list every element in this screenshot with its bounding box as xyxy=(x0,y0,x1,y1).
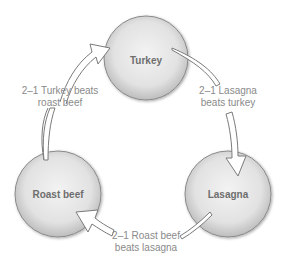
preference-cycle-diagram: Turkey Roast beef Lasagna 2–1 Turkey bea… xyxy=(0,0,288,269)
edge-label-turkey-beats-roast-beef-line1: 2–1 Turkey beats xyxy=(22,85,99,96)
edge-label-roast-beef-beats-lasagna-line1: 2–1 Roast beef xyxy=(112,230,180,241)
edge-label-roast-beef-beats-lasagna-line2: beats lasagna xyxy=(115,242,178,253)
edge-label-turkey-beats-roast-beef-line2: roast beef xyxy=(38,97,83,108)
roast-beef-label: Roast beef xyxy=(32,189,84,200)
node-turkey: Turkey xyxy=(104,16,188,100)
edge-label-lasagna-beats-turkey-line1: 2–1 Lasagna xyxy=(199,85,257,96)
turkey-label: Turkey xyxy=(130,55,162,66)
edge-label-lasagna-beats-turkey-line2: beats turkey xyxy=(201,97,255,108)
lasagna-label: Lasagna xyxy=(208,189,249,200)
